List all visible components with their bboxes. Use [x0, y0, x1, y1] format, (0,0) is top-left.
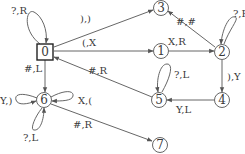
edge-label: ),Y	[227, 71, 241, 82]
edge-0-to-1: (,X	[54, 37, 153, 51]
edge-label: #,R	[88, 65, 108, 76]
edge-label: ?,L	[23, 132, 39, 143]
edge-6-6-self-loop-left: Y,)	[0, 94, 37, 106]
edge-label: ?,R	[11, 5, 28, 16]
edge-2-to-4: ),Y	[222, 60, 241, 92]
state-1: 1	[154, 44, 169, 59]
svg-text:6: 6	[40, 93, 48, 107]
state-7: 7	[153, 138, 168, 153]
state-diagram: ?,R ),) (,X #,R #,L X,R #,# ?,R ),Y Y,L	[0, 0, 245, 154]
edge-1-to-2: X,R	[168, 36, 214, 51]
edge-2-2-self-loop: ?,R	[221, 8, 245, 44]
edge-label: (,X	[82, 37, 97, 48]
edge-label: #,#	[176, 16, 196, 27]
edge-label: X,R	[168, 36, 186, 47]
svg-text:0: 0	[41, 45, 49, 59]
edge-5-5-self-loop: ?,L	[157, 64, 189, 92]
svg-text:2: 2	[218, 45, 226, 59]
edge-label: ?,R	[233, 8, 245, 19]
state-4: 4	[215, 93, 230, 108]
state-3: 3	[154, 1, 169, 16]
edge-4-to-5: Y,L	[167, 100, 214, 115]
svg-text:5: 5	[155, 93, 163, 107]
edge-label: Y,L	[175, 104, 191, 115]
edge-label: #,L	[24, 63, 43, 74]
state-6: 6	[37, 93, 52, 108]
edge-label: X,(	[78, 95, 92, 106]
edge-6-6-self-loop-bottom: ?,L	[23, 108, 44, 143]
edge-0-to-3: ),)	[54, 10, 153, 47]
edge-label: Y,)	[0, 95, 12, 106]
svg-text:3: 3	[157, 1, 165, 15]
state-2: 2	[215, 45, 230, 60]
edge-0-0-self-loop: ?,R	[11, 5, 46, 44]
state-0-start: 0	[37, 44, 53, 60]
state-5: 5	[152, 93, 167, 108]
edge-label: ),)	[80, 13, 91, 24]
edge-label: ?,L	[174, 69, 190, 80]
edge-label: #,R	[73, 119, 93, 130]
edge-6-to-7: #,R	[51, 104, 152, 141]
edge-5-to-0: #,R	[54, 57, 152, 97]
edge-6-6-self-loop-right: X,(	[51, 92, 92, 106]
svg-text:1: 1	[157, 44, 165, 58]
svg-text:7: 7	[156, 138, 164, 152]
edge-0-to-6: #,L	[24, 60, 45, 92]
svg-text:4: 4	[218, 93, 226, 107]
